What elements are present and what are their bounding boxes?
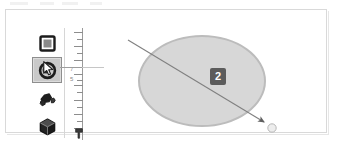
polygon-icon [39,93,56,109]
ruler-tick [77,39,83,40]
step-badge: 2 [210,68,226,85]
drawing-canvas[interactable]: 2 [96,22,332,140]
ruler-tick [74,60,83,61]
ruler-tick [77,53,83,54]
tool-button-ellipse[interactable] [32,57,62,83]
drag-endpoint-handle[interactable] [268,124,276,132]
drag-arrow-line [128,40,264,122]
ruler-tick [74,100,83,101]
ruler-tick [74,114,83,115]
top-edge-artifact [90,2,102,5]
vertical-ruler[interactable]: 7 5 [70,28,92,140]
tool-button-rectangle[interactable] [32,30,62,56]
ellipse-icon [38,61,57,80]
ruler-tick [77,92,83,93]
screenshot-root: 7 5 2 [0,0,339,141]
palette-separator [64,28,65,138]
ruler-marker-icon[interactable] [75,128,83,139]
top-edge-artifact [40,2,54,5]
ruler-tick [74,46,83,47]
rectangle-icon [39,35,56,52]
ruler-tick [74,32,83,33]
ruler-tick [77,107,83,108]
application-window: 7 5 2 [5,9,327,133]
ruler-tick [74,85,83,86]
top-edge-artifact [62,2,78,5]
ruler-label: 5 [70,76,73,82]
ruler-tick [77,121,83,122]
ruler-tick [77,80,83,81]
cube-icon [39,118,56,136]
ruler-tick [74,74,83,75]
tool-palette [32,30,62,138]
tool-button-cube[interactable] [32,114,62,140]
tool-button-polygon[interactable] [32,88,62,114]
top-edge-artifact [10,2,28,5]
ruler-axis-line [82,28,83,140]
